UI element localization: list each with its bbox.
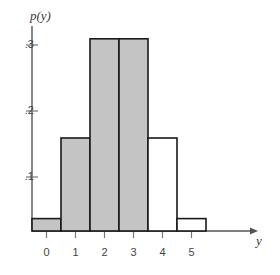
x-tick-label: 2 <box>95 246 115 258</box>
histogram-bar <box>148 138 177 231</box>
histogram-bar <box>177 219 206 231</box>
x-tick-label: 4 <box>153 246 173 258</box>
x-tick-label: 3 <box>124 246 144 258</box>
histogram-bar <box>61 138 90 231</box>
histogram-bar <box>90 39 119 231</box>
histogram-bar <box>119 39 148 231</box>
x-tick-label: 5 <box>182 246 202 258</box>
histogram-plot-area <box>0 0 280 275</box>
histogram-bar <box>32 219 61 231</box>
x-tick-label: 1 <box>66 246 86 258</box>
y-axis-title: p(y) <box>30 8 51 24</box>
histogram-figure: p(y) y .3 .2 .1 0 1 2 3 4 5 <box>0 0 280 275</box>
x-axis-title: y <box>256 233 262 249</box>
y-tick-label: .1 <box>16 170 34 182</box>
histogram-bars <box>32 39 206 231</box>
y-tick-label: .2 <box>16 104 34 116</box>
y-tick-label: .3 <box>16 38 34 50</box>
x-tick-label: 0 <box>37 246 57 258</box>
